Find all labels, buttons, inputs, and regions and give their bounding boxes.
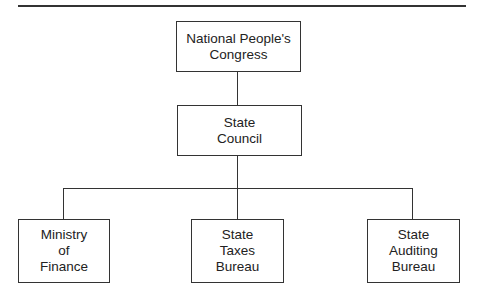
node-label-line: of (40, 243, 88, 259)
node-npc: National People'sCongress (176, 21, 301, 72)
node-label-line: Finance (40, 259, 88, 275)
node-label-line: Council (217, 131, 262, 147)
node-label-line: Bureau (216, 259, 260, 275)
node-label-line: Ministry (40, 227, 88, 243)
node-council: StateCouncil (177, 105, 302, 156)
edge-branch-bar (63, 188, 413, 189)
node-label-line: Taxes (216, 243, 260, 259)
edge-council-finance (63, 188, 64, 219)
node-label-line: Auditing (389, 243, 438, 259)
top-rule (18, 5, 466, 7)
node-label-line: Congress (186, 47, 291, 63)
edge-npc-council (237, 72, 238, 105)
node-label-line: State (216, 227, 260, 243)
edge-council-auditing (412, 188, 413, 219)
node-label-line: Bureau (389, 259, 438, 275)
node-label-line: State (389, 227, 438, 243)
node-label-line: State (217, 115, 262, 131)
node-finance: MinistryofFinance (18, 219, 110, 283)
node-auditing: StateAuditingBureau (367, 219, 460, 283)
node-taxes: StateTaxesBureau (191, 219, 284, 283)
node-label-line: National People's (186, 31, 291, 47)
